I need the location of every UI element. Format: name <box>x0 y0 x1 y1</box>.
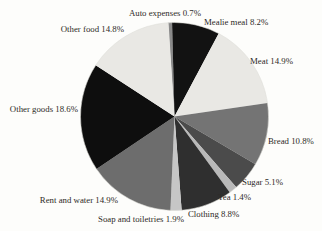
pie-label-bread: Bread 10.8% <box>268 136 315 146</box>
pie-label-other-goods: Other goods 18.6% <box>10 104 79 114</box>
pie-label-sugar: Sugar 5.1% <box>242 177 284 187</box>
pie-label-rent-and-water: Rent and water 14.9% <box>40 195 119 205</box>
pie-label-soap-and-toiletries: Soap and toiletries 1.9% <box>98 214 185 224</box>
pie-label-meat: Meat 14.9% <box>250 56 294 66</box>
pie-label-clothing: Clothing 8.8% <box>188 209 240 219</box>
household-expenses-pie-chart-figure: Auto expenses 0.7%Mealie meal 8.2%Meat 1… <box>0 0 322 231</box>
pie-label-other-food: Other food 14.8% <box>61 24 125 34</box>
pie-label-tea: Tea 1.4% <box>218 192 252 202</box>
pie-label-mealie-meal: Mealie meal 8.2% <box>204 17 269 27</box>
pie-label-auto-expenses: Auto expenses 0.7% <box>129 8 202 18</box>
pie-chart: Auto expenses 0.7%Mealie meal 8.2%Meat 1… <box>0 0 322 231</box>
